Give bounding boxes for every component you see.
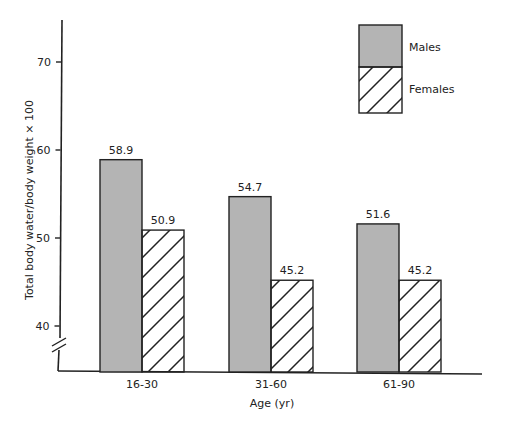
x-tick-labels: 16-3031-6061-90 — [126, 378, 415, 391]
bar-value-label: 51.6 — [366, 208, 391, 221]
bar-males-31-60 — [229, 197, 271, 372]
bar-value-label: 45.2 — [280, 264, 305, 277]
legend-swatch-males — [359, 25, 402, 67]
bar-males-61-90 — [357, 224, 399, 372]
y-ticks: 40506070 — [36, 56, 62, 333]
y-axis — [52, 20, 66, 371]
bar-value-label: 54.7 — [238, 181, 263, 194]
bar-females-61-90 — [399, 280, 441, 372]
bars: 58.950.954.745.251.645.2 — [100, 144, 441, 372]
legend-label-males: Males — [409, 41, 441, 54]
bar-value-label: 45.2 — [408, 264, 433, 277]
x-tick-label: 61-90 — [383, 378, 415, 391]
y-tick-label: 60 — [37, 144, 51, 157]
y-tick-label: 70 — [37, 56, 51, 69]
x-tick-label: 16-30 — [126, 378, 158, 391]
bar-value-label: 58.9 — [109, 144, 134, 157]
y-tick-label: 50 — [36, 232, 50, 245]
x-tick-label: 31-60 — [255, 378, 287, 391]
bar-females-16-30 — [142, 230, 184, 372]
bar-chart: 40506070 Total body water/body weight × … — [0, 0, 511, 429]
legend-label-females: Females — [409, 83, 455, 96]
x-axis-label: Age (yr) — [250, 397, 294, 410]
bar-females-31-60 — [271, 280, 313, 372]
bar-males-16-30 — [100, 160, 142, 372]
y-axis-label: Total body water/body weight × 100 — [23, 100, 36, 301]
legend: Males Females — [359, 25, 455, 113]
y-tick-label: 40 — [36, 320, 50, 333]
bar-value-label: 50.9 — [151, 214, 176, 227]
legend-swatch-females — [359, 67, 402, 113]
